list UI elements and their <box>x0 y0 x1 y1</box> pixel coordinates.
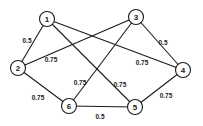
node-5: 5 <box>128 100 143 115</box>
edge-weight-label: 0.75 <box>45 56 58 63</box>
node-label: 2 <box>16 64 21 73</box>
edge-weight-label: 0.75 <box>114 81 127 88</box>
node-label: 4 <box>181 66 186 75</box>
edge-weight-label: 0.5 <box>158 39 167 46</box>
edge-1-5 <box>47 19 135 107</box>
edge-3-6 <box>69 17 136 106</box>
edge-weight-label: 0.75 <box>136 59 149 66</box>
edge-weight-label: 0.5 <box>95 113 104 120</box>
node-label: 1 <box>45 15 50 24</box>
node-4: 4 <box>176 63 191 78</box>
edge-weight-label: 0.75 <box>160 92 173 99</box>
graph-diagram: 0.50.750.750.750.750.50.750.50.75 123456 <box>0 0 203 126</box>
edge-1-2 <box>18 19 47 68</box>
node-label: 5 <box>133 103 138 112</box>
node-label: 6 <box>67 102 72 111</box>
node-6: 6 <box>62 99 77 114</box>
edge-weight-label: 0.5 <box>22 37 31 44</box>
node-2: 2 <box>11 61 26 76</box>
edge-3-2 <box>18 17 136 68</box>
edge-5-4 <box>135 70 183 107</box>
edge-weight-label: 0.75 <box>32 94 45 101</box>
edge-labels-layer: 0.50.750.750.750.750.50.750.50.75 <box>22 37 172 120</box>
node-label: 3 <box>134 13 139 22</box>
node-1: 1 <box>40 12 55 27</box>
edge-6-5 <box>69 106 135 107</box>
edge-weight-label: 0.75 <box>74 79 87 86</box>
node-3: 3 <box>129 10 144 25</box>
